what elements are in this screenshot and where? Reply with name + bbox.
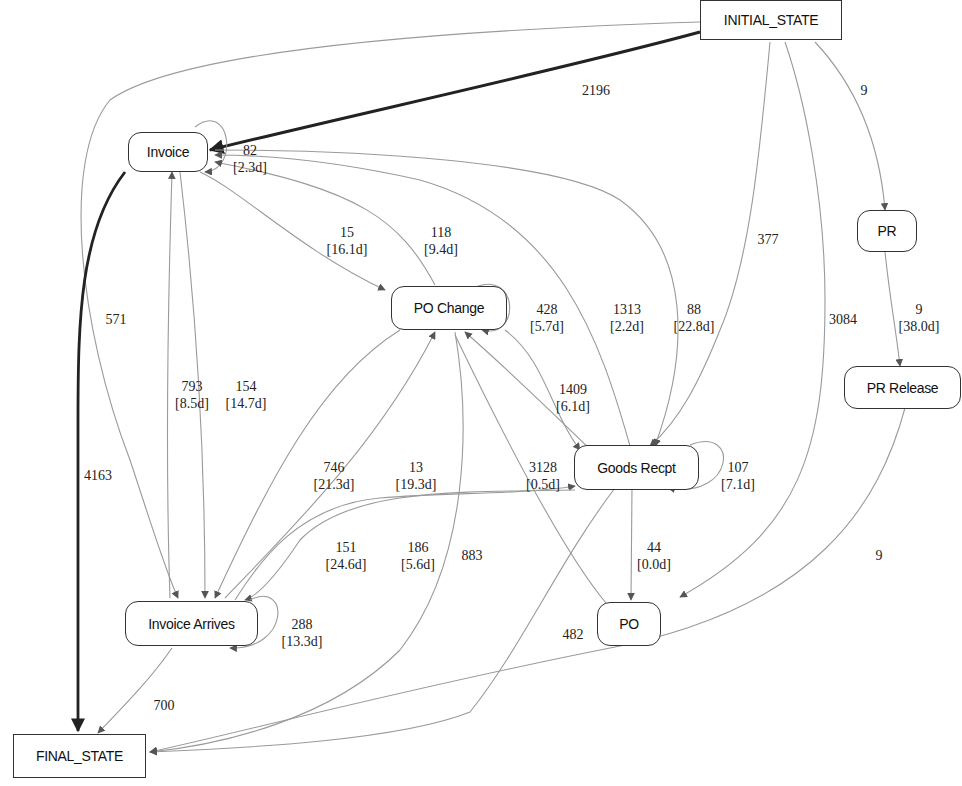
node-pr[interactable]: PR <box>857 210 917 252</box>
edge-count: 9 <box>899 301 940 318</box>
edge-label-po-change-goods: 1409[6.1d] <box>556 381 590 415</box>
edge-duration: [19.3d] <box>396 476 437 493</box>
edge-label-pr-prrelease: 9[38.0d] <box>899 301 940 335</box>
edge-count: 1409 <box>556 381 590 398</box>
edge-label-initial-goods: 377 <box>758 231 779 248</box>
edge-count: 571 <box>106 311 127 328</box>
edge-duration: [22.8d] <box>674 318 715 335</box>
edge-label-initial-po: 3084 <box>829 311 857 328</box>
node-label: FINAL_STATE <box>36 748 123 764</box>
node-label: PO Change <box>414 300 484 316</box>
edge-label-invoice-arrives-invoice: 793[8.5d] <box>175 378 209 412</box>
edge-duration: [7.1d] <box>721 476 755 493</box>
node-po[interactable]: PO <box>597 602 661 646</box>
edge-duration: [2.2d] <box>610 318 644 335</box>
edge-goods-recpt-to-po <box>631 488 632 600</box>
edge-count: 4163 <box>84 467 112 484</box>
edge-initial-to-goods-recpt <box>650 42 770 446</box>
node-label: Goods Recpt <box>597 460 675 476</box>
edge-label-goods-po-change: 3128[0.5d] <box>526 459 560 493</box>
edge-label-prrelease-final: 9 <box>876 547 883 564</box>
edge-count: 44 <box>637 539 671 556</box>
edge-invoice-arrives-to-final <box>98 648 172 733</box>
edge-count: 82 <box>233 142 267 159</box>
edge-label-goods-po: 44[0.0d] <box>637 539 671 573</box>
edge-duration: [9.4d] <box>424 241 458 258</box>
edge-duration: [0.0d] <box>637 556 671 573</box>
edge-count: 746 <box>314 459 355 476</box>
edge-label-invoice-arrives-po-change: 13[19.3d] <box>396 459 437 493</box>
node-label: Invoice Arrives <box>148 616 235 632</box>
edge-duration: [14.7d] <box>226 395 267 412</box>
edge-label-invoice-goods: 88[22.8d] <box>674 301 715 335</box>
edge-count: 154 <box>226 378 267 395</box>
node-goods-recpt[interactable]: Goods Recpt <box>574 445 699 490</box>
edge-count: 377 <box>758 231 779 248</box>
edge-label-invoice-arrives-self: 288[13.3d] <box>282 616 323 650</box>
edge-label-invoice-arrives-goods: 151[24.6d] <box>326 539 367 573</box>
edge-label-initial-invoice-arrives: 571 <box>106 311 127 328</box>
edge-duration: [2.3d] <box>233 159 267 176</box>
edge-po-change-to-invoice-arrives <box>215 330 400 598</box>
edge-count: 3084 <box>829 311 857 328</box>
edge-label-goods-invoice: 1313[2.2d] <box>610 301 644 335</box>
edge-label-po-change-invoice: 118[9.4d] <box>424 224 458 258</box>
edge-label-po-change-invoice-arrives: 746[21.3d] <box>314 459 355 493</box>
edge-count: 186 <box>401 539 435 556</box>
edge-initial-to-invoice <box>210 32 700 150</box>
edge-count: 9 <box>861 82 868 99</box>
edge-po-change-to-invoice <box>215 162 435 285</box>
edge-invoice-to-final <box>78 172 125 731</box>
node-label: INITIAL_STATE <box>724 12 818 28</box>
edge-label-invoice-po-change: 15[16.1d] <box>327 224 368 258</box>
edge-count: 15 <box>327 224 368 241</box>
edge-count: 3128 <box>526 459 560 476</box>
node-label: Invoice <box>147 144 189 160</box>
edge-duration: [0.5d] <box>526 476 560 493</box>
edge-count: 1313 <box>610 301 644 318</box>
edge-duration: [5.7d] <box>530 318 564 335</box>
edge-duration: [24.6d] <box>326 556 367 573</box>
node-invoice-arrives[interactable]: Invoice Arrives <box>125 601 258 646</box>
edge-label-invoice-arrives-final: 700 <box>154 697 175 714</box>
edge-count: 88 <box>674 301 715 318</box>
edge-duration: [5.6d] <box>401 556 435 573</box>
edge-count: 107 <box>721 459 755 476</box>
edge-count: 700 <box>154 697 175 714</box>
edge-count: 9 <box>876 547 883 564</box>
edge-initial-to-pr <box>815 42 885 210</box>
edge-label-po-change-self: 428[5.7d] <box>530 301 564 335</box>
node-label: PR <box>878 223 897 239</box>
edge-duration: [6.1d] <box>556 398 590 415</box>
node-final-state[interactable]: FINAL_STATE <box>13 734 146 778</box>
edge-label-goods-final: 482 <box>563 626 584 643</box>
edge-count: 793 <box>175 378 209 395</box>
edge-label-initial-invoice: 2196 <box>582 82 610 99</box>
edge-duration: [16.1d] <box>327 241 368 258</box>
edge-count: 13 <box>396 459 437 476</box>
edge-duration: [8.5d] <box>175 395 209 412</box>
edge-duration: [21.3d] <box>314 476 355 493</box>
edge-count: 883 <box>462 547 483 564</box>
node-po-change[interactable]: PO Change <box>391 286 507 330</box>
node-label: PR Release <box>867 380 939 396</box>
edge-count: 428 <box>530 301 564 318</box>
edge-label-invoice-final: 4163 <box>84 467 112 484</box>
edge-duration: [38.0d] <box>899 318 940 335</box>
edge-label-invoice-invoice-arrives: 154[14.7d] <box>226 378 267 412</box>
node-pr-release[interactable]: PR Release <box>844 366 961 409</box>
edge-label-invoice-self: 82[2.3d] <box>233 142 267 176</box>
edge-count: 151 <box>326 539 367 556</box>
process-graph-canvas <box>0 0 962 786</box>
node-invoice[interactable]: Invoice <box>128 132 208 172</box>
edge-count: 118 <box>424 224 458 241</box>
edge-count: 482 <box>563 626 584 643</box>
edge-count: 2196 <box>582 82 610 99</box>
edge-invoice-arrives-to-invoice <box>167 172 172 598</box>
edge-label-po-change-final: 883 <box>462 547 483 564</box>
edge-count: 288 <box>282 616 323 633</box>
edge-label-initial-pr: 9 <box>861 82 868 99</box>
node-initial-state[interactable]: INITIAL_STATE <box>700 0 842 40</box>
node-label: PO <box>619 616 639 632</box>
edge-duration: [13.3d] <box>282 633 323 650</box>
